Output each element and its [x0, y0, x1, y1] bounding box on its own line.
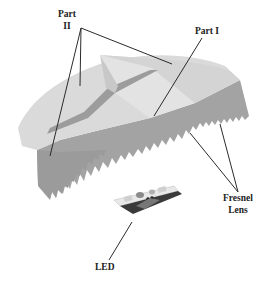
leader-led — [109, 222, 132, 260]
label-part-2-line2: II — [58, 20, 76, 32]
leader-fresnel-b — [190, 133, 238, 192]
led-chip — [136, 192, 144, 198]
led-chip — [149, 190, 155, 195]
fresnel-lens-diagram: Part II Part I Fresnel Lens LED — [0, 0, 269, 289]
label-fresnel-lens: Fresnel Lens — [223, 192, 253, 216]
label-fresnel-line1: Fresnel — [223, 192, 253, 204]
diagram-canvas — [0, 0, 269, 289]
label-part-2-line1: Part — [58, 8, 76, 20]
label-part-2: Part II — [58, 8, 76, 32]
label-led: LED — [95, 261, 115, 273]
label-part-1: Part I — [195, 25, 219, 37]
led-component — [114, 186, 182, 214]
label-fresnel-line2: Lens — [223, 204, 253, 216]
leader-fresnel-a — [220, 124, 238, 192]
